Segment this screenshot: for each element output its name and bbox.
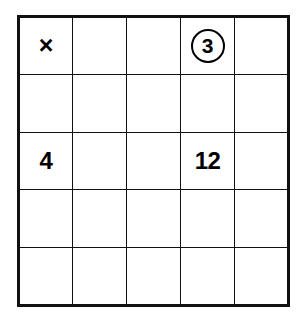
grid-cell[interactable] xyxy=(73,17,127,75)
grid-cell[interactable]: × xyxy=(19,17,73,75)
grid-row: 4 12 xyxy=(19,132,289,190)
grid-cell[interactable] xyxy=(127,74,181,132)
grid-cell[interactable] xyxy=(235,17,289,75)
grid-cell[interactable] xyxy=(127,248,181,306)
grid-row xyxy=(19,248,289,306)
circled-number-text: 3 xyxy=(202,35,214,56)
grid-cell[interactable] xyxy=(235,190,289,248)
grid-cell[interactable] xyxy=(19,74,73,132)
grid-cell[interactable] xyxy=(181,248,235,306)
grid-cell[interactable] xyxy=(127,132,181,190)
grid-cell[interactable]: 3 xyxy=(181,17,235,75)
grid-cell[interactable] xyxy=(127,17,181,75)
grid-row xyxy=(19,190,289,248)
grid-cell[interactable]: 12 xyxy=(181,132,235,190)
grid-cell[interactable] xyxy=(19,248,73,306)
multiplication-grid: × 3 xyxy=(17,15,290,307)
grid-cell[interactable] xyxy=(73,132,127,190)
grid-cell[interactable] xyxy=(235,132,289,190)
multiplication-sign: × xyxy=(39,33,54,58)
grid-cell[interactable]: 4 xyxy=(19,132,73,190)
grid-cell[interactable] xyxy=(235,248,289,306)
grid-cell[interactable] xyxy=(235,74,289,132)
cell-text: 4 xyxy=(40,149,53,173)
grid-row xyxy=(19,74,289,132)
grid-cell[interactable] xyxy=(181,190,235,248)
grid-cell[interactable] xyxy=(19,190,73,248)
circled-number: 3 xyxy=(191,29,225,63)
grid-cell[interactable] xyxy=(73,190,127,248)
cell-text: 12 xyxy=(195,149,221,173)
grid-body: × 3 xyxy=(19,17,289,306)
grid-cell[interactable] xyxy=(73,248,127,306)
grid-cell[interactable] xyxy=(181,74,235,132)
multiplication-grid-worksheet: × 3 xyxy=(0,0,308,321)
grid-cell[interactable] xyxy=(73,74,127,132)
grid-cell[interactable] xyxy=(127,190,181,248)
grid-row: × 3 xyxy=(19,17,289,75)
